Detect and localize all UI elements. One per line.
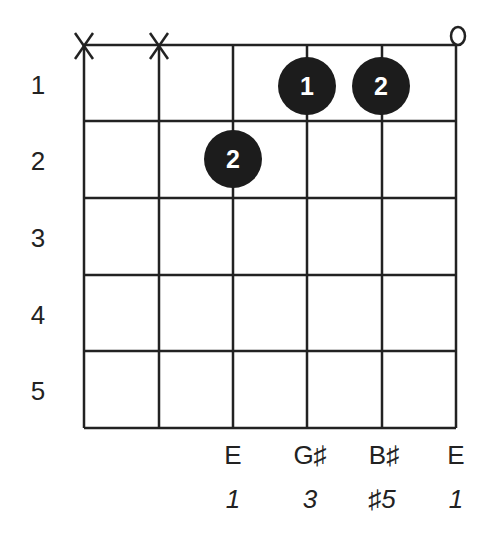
open-string-icon	[451, 27, 465, 45]
interval-label: 1	[208, 484, 258, 515]
fret-number: 2	[26, 146, 50, 177]
fret-number: 3	[26, 223, 50, 254]
note-label: E	[208, 440, 258, 471]
note-label: E	[431, 440, 481, 471]
fret-number: 4	[26, 300, 50, 331]
note-label: B♯	[359, 440, 409, 471]
fret-number: 1	[26, 70, 50, 101]
finger-dot: 2	[352, 57, 410, 115]
interval-label: 1	[431, 484, 481, 515]
note-label: G♯	[285, 440, 335, 471]
finger-dot: 1	[278, 57, 336, 115]
fret-number: 5	[26, 376, 50, 407]
finger-dot: 2	[204, 130, 262, 188]
interval-label: ♯5	[357, 484, 407, 515]
interval-label: 3	[285, 484, 335, 515]
